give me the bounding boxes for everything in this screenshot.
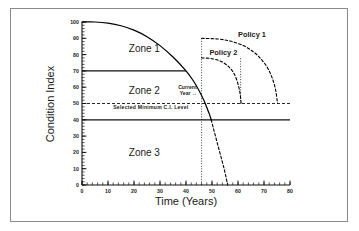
zone-label-zone-2: Zone 2: [129, 85, 161, 96]
y-tick-label: 80: [73, 52, 79, 58]
x-tick-label: 0: [81, 188, 84, 194]
zone-label-zone-1: Zone 1: [129, 43, 161, 54]
annotation-selected-minimum-ci-level: Selected Minimum C.I. Level: [113, 104, 189, 110]
figure-container: 01020304050607080 0102030405060708090100…: [0, 0, 359, 231]
y-tick-label: 20: [73, 149, 79, 155]
y-tick-label: 90: [73, 35, 79, 41]
x-tick-label: 30: [157, 188, 163, 194]
y-tick-label: 70: [73, 68, 79, 74]
x-tick-label: 80: [287, 188, 293, 194]
x-axis-title: Time (Years): [155, 195, 217, 207]
annotation-policy-1: Policy 1: [238, 30, 266, 39]
x-tick-label: 20: [131, 188, 137, 194]
y-tick-label: 100: [70, 19, 79, 25]
y-tick-label: 30: [73, 133, 79, 139]
y-tick-label: 50: [73, 100, 79, 106]
y-tick-label: 60: [73, 84, 79, 90]
y-axis-tick-labels: 0102030405060708090100: [70, 19, 79, 188]
x-tick-label: 10: [105, 188, 111, 194]
x-tick-label: 60: [235, 188, 241, 194]
y-tick-label: 40: [73, 117, 79, 123]
series-deterioration-curve-projected: [211, 120, 227, 185]
annotation-policy-2: Policy 2: [209, 48, 237, 57]
zone-label-zone-3: Zone 3: [129, 147, 161, 158]
reference-lines: [82, 38, 290, 185]
zone-labels: Zone 1Zone 2Zone 3: [129, 43, 161, 158]
x-axis-tick-labels: 01020304050607080: [81, 188, 293, 194]
annotation-current-year-line2: Year →: [180, 90, 197, 96]
series-policy-2: [202, 58, 242, 104]
x-tick-label: 70: [261, 188, 267, 194]
y-axis-title: Condition Index: [44, 65, 56, 142]
x-tick-label: 40: [183, 188, 189, 194]
condition-index-chart: 01020304050607080 0102030405060708090100…: [0, 0, 359, 231]
y-tick-label: 10: [73, 166, 79, 172]
x-tick-label: 50: [209, 188, 215, 194]
y-tick-label: 0: [76, 182, 79, 188]
